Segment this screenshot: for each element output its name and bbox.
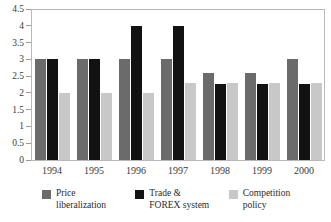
bar-group [157,9,199,160]
legend-swatch-icon [42,190,51,199]
y-axis-tick-label: 2.5 [12,71,24,81]
x-axis-label: 1996 [115,163,157,179]
y-axis-tick-label: 4 [19,21,24,31]
bar[interactable] [287,59,298,160]
bar[interactable] [227,83,238,160]
x-axis-label: 1995 [73,163,115,179]
bar[interactable] [119,59,130,160]
bar[interactable] [161,59,172,160]
legend-swatch-icon [135,190,144,199]
bar[interactable] [35,59,46,160]
legend-label: Competitionpolicy [243,188,291,211]
bar-group [115,9,157,160]
bar-chart: 00.511.522.533.544.5 1994199519961997199… [0,0,331,222]
y-axis-tick-label: 0 [19,155,24,165]
bar[interactable] [59,93,70,160]
bar[interactable] [245,73,256,160]
bar[interactable] [257,84,268,160]
x-axis-labels: 1994199519961997199819992000 [31,163,325,179]
y-axis-tick-label: 1.5 [12,105,24,115]
bar-groups [31,9,325,160]
bar[interactable] [47,59,58,160]
bar[interactable] [101,93,112,160]
bar-group [73,9,115,160]
x-axis-label: 1999 [241,163,283,179]
bar-group [31,9,73,160]
bar-group [283,9,325,160]
plot-area [31,9,325,160]
y-axis-tick-label: 3 [19,54,24,64]
x-axis-label: 1997 [157,163,199,179]
bar[interactable] [143,93,154,160]
bar[interactable] [269,83,280,160]
y-axis: 00.511.522.533.544.5 [0,0,31,170]
y-axis-tick-label: 3.5 [12,38,24,48]
y-axis-tick-label: 2 [19,88,24,98]
bar[interactable] [77,59,88,160]
legend-item[interactable]: Trade &FOREX system [135,188,228,218]
bar[interactable] [299,84,310,160]
y-axis-tick-label: 4.5 [12,4,24,14]
bar[interactable] [203,73,214,160]
x-axis-label: 2000 [283,163,325,179]
y-axis-tick-label: 0.5 [12,138,24,148]
legend-swatch-icon [229,190,238,199]
x-axis-label: 1998 [199,163,241,179]
bar-group [241,9,283,160]
legend-item[interactable]: Competitionpolicy [229,188,322,218]
chart-legend: PriceliberalizationTrade &FOREX systemCo… [42,188,322,218]
legend-label: Trade &FOREX system [149,188,209,211]
x-axis-label: 1994 [31,163,73,179]
bar[interactable] [185,83,196,160]
legend-label: Priceliberalization [56,188,106,211]
legend-item[interactable]: Priceliberalization [42,188,135,218]
bar[interactable] [173,26,184,160]
bar[interactable] [131,26,142,160]
bar-group [199,9,241,160]
bar[interactable] [215,84,226,160]
bar[interactable] [311,83,322,160]
bar[interactable] [89,59,100,160]
y-axis-tick-label: 1 [19,121,24,131]
